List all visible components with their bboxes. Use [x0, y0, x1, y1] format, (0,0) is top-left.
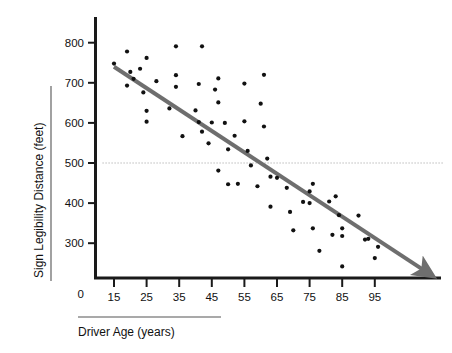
scatter-plot-figure: Sign Legibility Distance (feet) 800 700 …	[0, 0, 452, 353]
x-tick-label-95: 95	[368, 291, 381, 303]
data-point	[193, 108, 197, 112]
x-tick-label-75: 75	[303, 291, 316, 303]
data-point	[112, 61, 116, 65]
data-point	[340, 234, 344, 238]
y-tick-label-800: 800	[65, 37, 84, 49]
data-point	[154, 79, 158, 83]
x-tick-label-35: 35	[173, 291, 186, 303]
data-point	[233, 134, 237, 138]
data-point	[131, 77, 135, 81]
data-point	[216, 169, 220, 173]
data-point	[180, 134, 184, 138]
data-point	[308, 189, 312, 193]
data-point	[288, 210, 292, 214]
data-point	[197, 82, 201, 86]
data-point	[246, 149, 250, 153]
data-point	[340, 264, 344, 268]
data-point	[268, 205, 272, 209]
data-point	[167, 106, 171, 110]
y-tick-label-400: 400	[65, 197, 84, 209]
data-point	[334, 194, 338, 198]
data-point	[226, 147, 230, 151]
data-point	[308, 201, 312, 205]
data-point	[200, 44, 204, 48]
data-point	[275, 176, 279, 180]
x-tick-label-65: 65	[271, 291, 284, 303]
data-point	[197, 120, 201, 124]
x-axis-title: Driver Age (years)	[78, 325, 175, 339]
data-point	[223, 121, 227, 125]
data-point	[317, 249, 321, 253]
data-point	[216, 76, 220, 80]
data-point	[356, 213, 360, 217]
data-point	[259, 102, 263, 106]
y-tick-label-600: 600	[65, 117, 84, 129]
data-point	[226, 182, 230, 186]
data-point	[242, 82, 246, 86]
data-point	[330, 233, 334, 237]
chart-canvas: Sign Legibility Distance (feet) 800 700 …	[0, 0, 452, 353]
data-point	[174, 85, 178, 89]
data-point	[200, 130, 204, 134]
data-point	[145, 56, 149, 60]
data-point	[262, 73, 266, 77]
data-point	[291, 228, 295, 232]
data-point	[138, 67, 142, 71]
y-tick-label-700: 700	[65, 77, 84, 89]
data-point	[210, 120, 214, 124]
data-point	[213, 88, 217, 92]
x-tick-label-55: 55	[238, 291, 251, 303]
data-point	[376, 245, 380, 249]
data-point	[301, 200, 305, 204]
data-point	[366, 237, 370, 241]
data-point	[145, 120, 149, 124]
data-point	[236, 182, 240, 186]
x-tick-label-85: 85	[336, 291, 349, 303]
data-point	[268, 175, 272, 179]
data-point	[141, 90, 145, 94]
data-point	[206, 141, 210, 145]
x-tick-label-15: 15	[108, 291, 121, 303]
data-point	[262, 124, 266, 128]
data-point	[125, 49, 129, 53]
data-point	[174, 73, 178, 77]
data-point	[174, 44, 178, 48]
data-point	[242, 119, 246, 123]
data-point	[145, 109, 149, 113]
y-tick-label-300: 300	[65, 237, 84, 249]
data-point	[249, 163, 253, 167]
data-point	[125, 84, 129, 88]
data-point	[216, 100, 220, 104]
plot-background	[0, 0, 452, 353]
origin-label: 0	[78, 288, 84, 300]
data-point	[340, 226, 344, 230]
data-point	[128, 70, 132, 74]
data-point	[373, 256, 377, 260]
data-point	[311, 226, 315, 230]
data-point	[327, 199, 331, 203]
data-point	[265, 156, 269, 160]
data-point	[337, 213, 341, 217]
data-point	[311, 182, 315, 186]
x-tick-label-25: 25	[140, 291, 153, 303]
data-point	[255, 184, 259, 188]
y-tick-label-500: 500	[65, 157, 84, 169]
x-tick-label-45: 45	[205, 291, 218, 303]
y-axis-title: Sign Legibility Distance (feet)	[32, 123, 46, 278]
data-point	[285, 186, 289, 190]
